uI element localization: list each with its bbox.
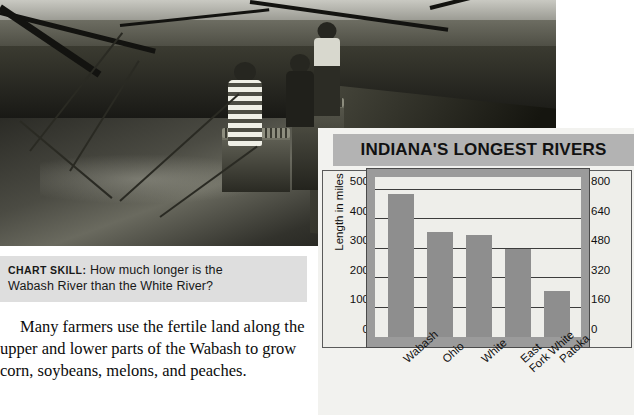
chart-skill-line-1: CHART SKILL: How much longer is the bbox=[8, 262, 299, 278]
bar bbox=[427, 232, 453, 337]
chart-skill-kicker: CHART SKILL: bbox=[8, 264, 86, 276]
y-axis-left-title: Length in miles bbox=[333, 162, 345, 262]
chart-skill-line-2: Wabash River than the White River? bbox=[8, 278, 299, 294]
chart-title-band: INDIANA'S LONGEST RIVERS bbox=[333, 134, 634, 166]
chart-title: INDIANA'S LONGEST RIVERS bbox=[333, 134, 634, 166]
bar bbox=[466, 235, 492, 337]
chart-skill-caption: CHART SKILL: How much longer is the Waba… bbox=[0, 256, 307, 302]
bar bbox=[505, 249, 531, 337]
photo-person-standing-tall bbox=[310, 22, 344, 114]
body-text: Many farmers use the fertile land along … bbox=[0, 316, 316, 382]
photo-person-striped-shirt bbox=[225, 62, 265, 146]
bar-series bbox=[375, 177, 581, 337]
photo-person-head bbox=[234, 62, 256, 82]
plot-area bbox=[375, 177, 581, 337]
chart-panel: INDIANA'S LONGEST RIVERS 010020030040050… bbox=[318, 128, 634, 415]
body-paragraph: Many farmers use the fertile land along … bbox=[0, 316, 316, 382]
x-axis-labels: WabashOhioWhiteEast Fork WhitePatoka bbox=[366, 352, 602, 412]
bar bbox=[388, 194, 414, 337]
chart-skill-question: How much longer is the bbox=[90, 263, 223, 277]
photo-person-body bbox=[314, 38, 340, 116]
photo-person-body bbox=[228, 80, 262, 146]
